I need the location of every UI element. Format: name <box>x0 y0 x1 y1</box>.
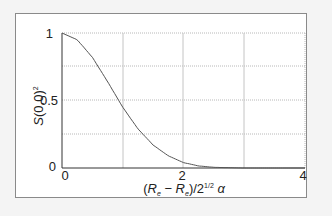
x-tick-4: 4 <box>299 168 306 183</box>
x-tick-0: 0 <box>61 168 68 183</box>
y-label-text: (0,0) <box>31 90 46 117</box>
svg-text:S(0,0)2: S(0,0)2 <box>31 86 46 125</box>
y-tick-1: 1 <box>46 26 53 41</box>
y-axis-label: S(0,0)2 <box>31 86 46 125</box>
chart: 1 0.5 0 0 2 4 S(0,0)2 (Re − Re)/21/2 α <box>0 0 332 216</box>
x-axis-label: (Re − Re)/21/2 α <box>143 181 225 197</box>
grid-vertical <box>123 33 244 168</box>
y-label-sup: 2 <box>32 86 39 90</box>
y-tick-0: 0 <box>49 159 56 174</box>
